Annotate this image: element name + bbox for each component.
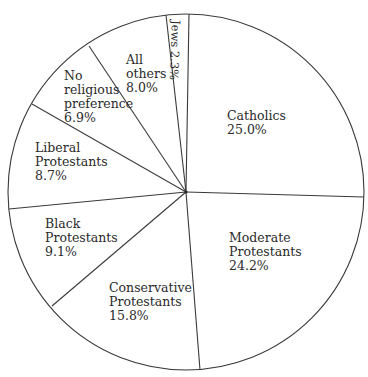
pie-chart: Catholics 25.0% Moderate Protestants 24.…	[0, 0, 368, 377]
slice-label-catholics: Catholics 25.0%	[227, 108, 286, 137]
boundary-catholics-moderate	[186, 192, 364, 197]
boundary-black-liberal	[9, 192, 186, 209]
svg-text:others: others	[126, 66, 166, 81]
svg-text:Protestants: Protestants	[229, 244, 302, 259]
svg-text:religious: religious	[64, 82, 119, 97]
svg-text:Liberal: Liberal	[35, 140, 80, 155]
slice-label-conservative-protestants: Conservative Protestants 15.8%	[109, 280, 192, 323]
svg-text:preference: preference	[64, 96, 133, 111]
svg-text:8.0%: 8.0%	[126, 80, 158, 95]
svg-text:Jews 2.3%: Jews 2.3%	[167, 19, 183, 81]
svg-text:All: All	[125, 52, 143, 67]
svg-text:24.2%: 24.2%	[229, 258, 269, 273]
svg-text:25.0%: 25.0%	[227, 122, 267, 137]
svg-text:9.1%: 9.1%	[45, 244, 77, 259]
slice-label-black-protestants: Black Protestants 9.1%	[45, 216, 118, 259]
svg-text:Moderate: Moderate	[229, 230, 291, 245]
boundary-jews-catholics	[186, 14, 189, 192]
svg-text:15.8%: 15.8%	[109, 308, 149, 323]
svg-text:Conservative: Conservative	[109, 280, 192, 295]
svg-text:No: No	[64, 68, 82, 83]
slice-label-no-religious-preference: No religious preference 6.9%	[64, 68, 133, 125]
slice-label-moderate-protestants: Moderate Protestants 24.2%	[229, 230, 302, 273]
svg-text:8.7%: 8.7%	[35, 168, 67, 183]
svg-text:Black: Black	[45, 216, 81, 231]
svg-text:6.9%: 6.9%	[64, 110, 96, 125]
slice-label-liberal-protestants: Liberal Protestants 8.7%	[35, 140, 108, 183]
pie-center	[185, 191, 188, 194]
svg-text:Protestants: Protestants	[45, 230, 118, 245]
slice-label-jews: Jews 2.3%	[167, 19, 183, 81]
svg-text:Catholics: Catholics	[227, 108, 286, 123]
svg-text:Protestants: Protestants	[109, 294, 182, 309]
svg-text:Protestants: Protestants	[35, 154, 108, 169]
slice-label-all-others: All others 8.0%	[125, 52, 166, 95]
